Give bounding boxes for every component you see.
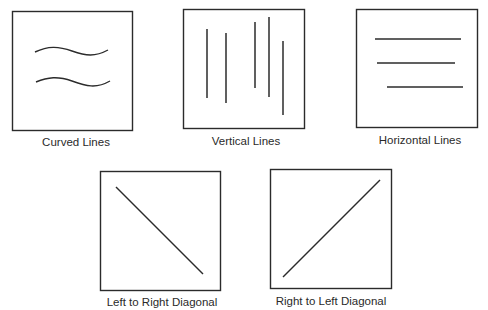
ascending-diagonal-line <box>283 180 380 277</box>
caption-right-to-left-diagonal: Right to Left Diagonal <box>276 295 387 308</box>
panel-right-to-left-diagonal <box>0 0 488 310</box>
right-to-left-diagonal-figure <box>0 0 488 310</box>
